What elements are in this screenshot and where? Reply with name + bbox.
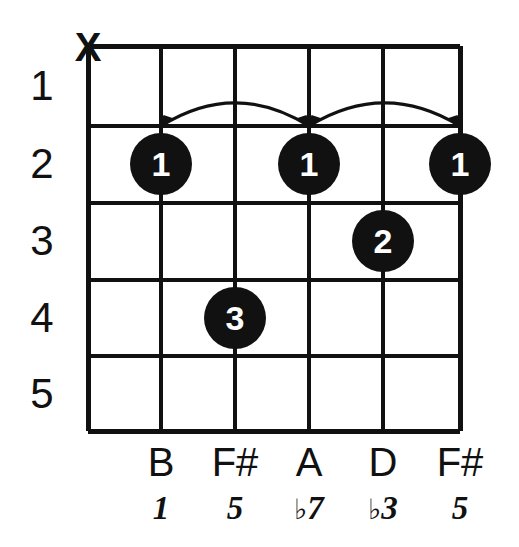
interval-degree: 1 — [153, 490, 170, 526]
fret-number-4: 4 — [20, 297, 64, 339]
finger-number-label: 1 — [152, 147, 171, 181]
flat-sign-icon: ♭ — [368, 493, 381, 526]
interval-degree: 5 — [452, 490, 469, 526]
muted-string-x-icon: X — [75, 27, 102, 67]
finger-dot-string6-fret2: 1 — [429, 133, 491, 195]
finger-number-label: 1 — [300, 147, 319, 181]
fret-number-3: 3 — [20, 220, 64, 262]
interval-label-4: 5 — [415, 492, 505, 525]
finger-dot-string4-fret2: 1 — [278, 133, 340, 195]
interval-degree: 7 — [307, 490, 324, 526]
fret-number-2: 2 — [20, 143, 64, 185]
interval-degree: 3 — [381, 490, 398, 526]
finger-dot-string3-fret4: 3 — [204, 287, 266, 349]
finger-number-label: 3 — [226, 301, 245, 335]
finger-dot-string2-fret2: 1 — [130, 133, 192, 195]
interval-degree: 5 — [227, 490, 244, 526]
fret-number-5: 5 — [20, 373, 64, 415]
note-label-string6: F# — [415, 442, 505, 482]
finger-number-label: 1 — [451, 147, 470, 181]
flat-sign-icon: ♭ — [294, 493, 307, 526]
fret-number-1: 1 — [20, 65, 64, 107]
finger-dot-string5-fret3: 2 — [352, 210, 414, 272]
chord-diagram: 12345 X 11123 BF#ADF# 15♭7♭35 — [0, 0, 519, 547]
finger-number-label: 2 — [374, 224, 393, 258]
